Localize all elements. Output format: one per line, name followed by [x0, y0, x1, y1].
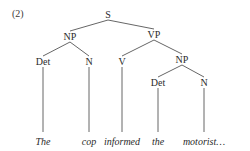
- leaf-word-w5: motorist…: [183, 136, 225, 147]
- node-det1: Det: [36, 56, 51, 67]
- edge-np2-n2: [182, 65, 204, 77]
- node-det2: Det: [151, 77, 166, 88]
- edge-np2-det2: [158, 65, 182, 77]
- syntax-tree: (2) SNPVPDetNVNPDetNThecopinformedthemot…: [0, 0, 250, 151]
- edge-s-vp: [108, 20, 154, 29]
- edge-vp-v: [122, 40, 154, 56]
- edge-vp-np2: [154, 40, 182, 54]
- node-np2: NP: [176, 54, 189, 65]
- example-number: (2): [12, 8, 24, 20]
- leaf-word-w4: the: [152, 136, 165, 147]
- edge-s-np1: [70, 20, 108, 31]
- node-n1: N: [85, 56, 92, 67]
- node-v: V: [118, 56, 126, 67]
- edge-np1-n1: [70, 42, 89, 56]
- node-np1: NP: [64, 31, 77, 42]
- leaf-word-w2: cop: [82, 136, 96, 147]
- edge-np1-det1: [43, 42, 70, 56]
- node-n2: N: [200, 77, 207, 88]
- node-s: S: [105, 9, 111, 20]
- tree-nodes: SNPVPDetNVNPDetNThecopinformedthemotoris…: [36, 9, 226, 147]
- leaf-word-w3: informed: [104, 136, 141, 147]
- leaf-word-w1: The: [36, 136, 52, 147]
- node-vp: VP: [148, 29, 161, 40]
